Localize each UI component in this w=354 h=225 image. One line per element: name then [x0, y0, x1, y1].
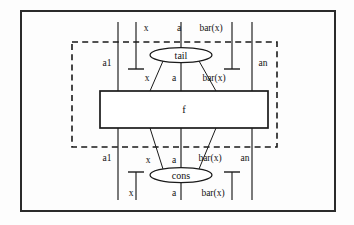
label-cons-in-x: x: [146, 155, 151, 165]
label-tail-out-x: x: [145, 73, 150, 83]
string-diagram-svg: f tail cons x a bar(x) a1 an x a bar(x) …: [0, 0, 354, 225]
tail-node-label: tail: [175, 50, 188, 61]
label-bottom-a: a: [172, 188, 177, 198]
f-box-label: f: [182, 104, 186, 115]
leg-tail-left: [150, 61, 163, 91]
label-top-barx: bar(x): [199, 23, 222, 34]
label-cons-in-barx: bar(x): [198, 153, 221, 164]
label-bottom-barx: bar(x): [201, 188, 224, 199]
label-tail-out-a: a: [172, 73, 177, 83]
label-upper-an: an: [259, 58, 268, 68]
label-upper-a1: a1: [103, 58, 112, 68]
label-lower-an: an: [241, 153, 250, 163]
label-cons-in-a: a: [172, 155, 177, 165]
diagram-canvas: f tail cons x a bar(x) a1 an x a bar(x) …: [0, 0, 354, 225]
leg-cons-left: [150, 128, 163, 169]
label-bottom-x: x: [129, 188, 134, 198]
label-lower-a1: a1: [103, 153, 112, 163]
label-top-x: x: [144, 23, 149, 33]
cons-node-label: cons: [172, 170, 190, 181]
label-tail-out-barx: bar(x): [202, 73, 225, 84]
